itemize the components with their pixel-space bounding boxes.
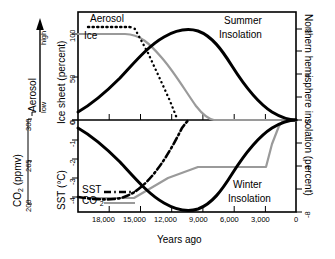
curve-label-co2-sub: 2 xyxy=(100,200,104,207)
figure-root: 18,000 15,000 12,000 9,000 6,000 3,000 0… xyxy=(0,0,335,259)
y-tick-sst-m2: -2 xyxy=(69,159,77,166)
annotation-winter-line1: Winter xyxy=(233,180,262,190)
y-tick-sst-m3: -3 xyxy=(69,178,77,185)
y-tick-sst-0: 0 xyxy=(69,121,77,125)
curve-label-co2-main: CO xyxy=(82,195,97,206)
curve-summer-insolation xyxy=(78,30,296,120)
y-axis-title-aerosol: Aerosol xyxy=(28,78,38,112)
aerosol-low-label: low xyxy=(40,102,48,113)
curve-label-aerosol: Aerosol xyxy=(90,14,124,24)
x-axis-title: Years ago xyxy=(157,235,202,245)
y-tick-sst-m1: -1 xyxy=(69,140,77,147)
curve-label-sst: SST xyxy=(82,185,101,195)
y-tick-co2-265: 265 xyxy=(25,159,33,172)
x-tick-0: 0 xyxy=(294,216,298,224)
y-tick-co2-300: 300 xyxy=(25,118,33,131)
y-axis-title-insolation: Northern hemisphere insolation (percent) xyxy=(303,14,313,196)
annotation-winter-line2: Insolation xyxy=(228,194,271,204)
curve-aerosol xyxy=(89,27,178,120)
y-axis-title-co2-unit: (ppmv) xyxy=(12,154,23,188)
x-tick-12000: 12,000 xyxy=(154,216,177,224)
aerosol-high-label: high xyxy=(40,31,48,45)
curve-label-co2: CO 2 xyxy=(82,196,104,207)
y-axis-title-ice: Ice sheet (percent) xyxy=(57,41,67,124)
curve-label-ice: Ice xyxy=(84,31,97,41)
x-tick-3000: 3,000 xyxy=(251,216,270,224)
y-axis-title-co2-sub: 2 xyxy=(17,188,24,192)
x-tick-18000: 18,000 xyxy=(92,216,115,224)
y-axis-title-co2: CO2 (ppmv) xyxy=(13,154,24,207)
annotation-summer-line2: Insolation xyxy=(219,30,262,40)
y-axis-title-co2-main: CO xyxy=(12,192,23,207)
plot-frame xyxy=(78,12,296,212)
y-tick-ice-100: 100 xyxy=(69,29,77,42)
annotation-summer-line1: Summer xyxy=(224,16,262,26)
x-tick-9000: 9,000 xyxy=(189,216,208,224)
x-tick-6000: 6,000 xyxy=(220,216,239,224)
y-tick-ice-50: 50 xyxy=(69,75,77,83)
y-axis-title-sst: SST (°C) xyxy=(57,170,67,210)
y-tick-sst-m4: -4 xyxy=(69,197,77,204)
x-tick-15000: 15,000 xyxy=(123,216,146,224)
y-tick-co2-200: 200 xyxy=(25,199,33,212)
y-tick-ins-m8: -8 xyxy=(304,211,312,218)
